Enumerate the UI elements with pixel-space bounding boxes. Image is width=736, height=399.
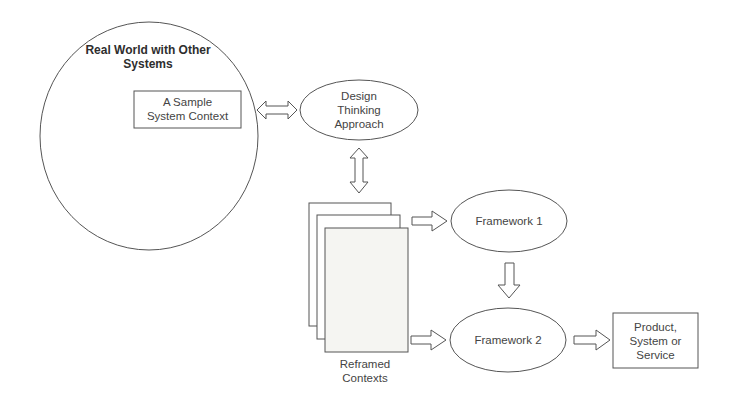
sample-context-line1: A Sample bbox=[134, 95, 241, 109]
bidirectional-arrow-horizontal-icon bbox=[257, 101, 297, 119]
design-thinking-label: Design Thinking Approach bbox=[310, 89, 408, 131]
design-thinking-line3: Approach bbox=[310, 117, 408, 131]
reframed-contexts-line2: Contexts bbox=[320, 371, 410, 385]
output-line3: Service bbox=[613, 348, 698, 362]
design-thinking-line1: Design bbox=[310, 89, 408, 103]
reframed-contexts-label: Reframed Contexts bbox=[320, 357, 410, 385]
bidirectional-arrow-vertical-icon bbox=[350, 148, 368, 193]
sample-context-label: A Sample System Context bbox=[134, 95, 241, 123]
arrow-right-icon bbox=[411, 330, 446, 350]
sample-context-line2: System Context bbox=[134, 109, 241, 123]
reframed-page-3 bbox=[325, 228, 408, 352]
real-world-label-line2: Systems bbox=[68, 57, 228, 71]
reframed-contexts-line1: Reframed bbox=[320, 357, 410, 371]
design-thinking-line2: Thinking bbox=[310, 103, 408, 117]
framework2-label: Framework 2 bbox=[454, 333, 562, 347]
arrow-right-icon bbox=[412, 211, 447, 231]
arrow-down-icon bbox=[498, 263, 520, 298]
output-line2: System or bbox=[613, 334, 698, 348]
real-world-label: Real World with Other Systems bbox=[68, 43, 228, 71]
output-line1: Product, bbox=[613, 320, 698, 334]
real-world-label-line1: Real World with Other bbox=[68, 43, 228, 57]
framework1-label: Framework 1 bbox=[455, 214, 563, 228]
arrow-right-icon bbox=[574, 330, 610, 350]
output-label: Product, System or Service bbox=[613, 320, 698, 362]
